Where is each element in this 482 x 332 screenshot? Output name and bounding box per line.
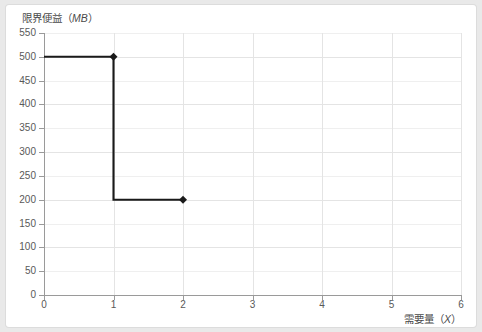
y-axis-tick bbox=[39, 57, 44, 58]
y-axis-tick-label: 200 bbox=[6, 195, 36, 205]
y-axis-tick bbox=[39, 224, 44, 225]
y-axis-label-text: 限界便益 bbox=[22, 12, 62, 24]
x-axis-label-unit: X bbox=[444, 313, 451, 325]
plot-area bbox=[44, 33, 461, 295]
y-axis-tick-label: 500 bbox=[6, 52, 36, 62]
y-axis-tick bbox=[39, 128, 44, 129]
y-axis-label-unit: MB bbox=[72, 12, 88, 24]
y-axis-tick bbox=[39, 247, 44, 248]
gridline-vertical bbox=[183, 33, 184, 295]
y-axis-tick-label: 350 bbox=[6, 123, 36, 133]
y-axis-line bbox=[44, 33, 45, 296]
gridline-vertical bbox=[253, 33, 254, 295]
chart-card: 限界便益（MB） 需要量（X） 050100150200250300350400… bbox=[6, 5, 476, 327]
y-axis-label-paren-open: （ bbox=[62, 12, 72, 24]
x-axis-tick-label: 6 bbox=[446, 300, 476, 310]
y-axis-tick-label: 300 bbox=[6, 147, 36, 157]
x-axis-tick-label: 3 bbox=[238, 300, 268, 310]
y-axis-tick bbox=[39, 200, 44, 201]
gridline-vertical bbox=[114, 33, 115, 295]
y-axis-tick bbox=[39, 176, 44, 177]
x-axis-label-text: 需要量 bbox=[404, 313, 434, 325]
y-axis-tick bbox=[39, 33, 44, 34]
y-axis-tick-label: 450 bbox=[6, 76, 36, 86]
y-axis-tick-label: 100 bbox=[6, 242, 36, 252]
y-axis-tick bbox=[39, 81, 44, 82]
gridline-vertical bbox=[322, 33, 323, 295]
x-axis-tick-label: 0 bbox=[29, 300, 59, 310]
y-axis-tick bbox=[39, 271, 44, 272]
y-axis-tick bbox=[39, 104, 44, 105]
y-axis-tick-label: 400 bbox=[6, 99, 36, 109]
y-axis-tick-label: 0 bbox=[6, 290, 36, 300]
y-axis-label-paren-close: ） bbox=[88, 12, 98, 24]
x-axis-tick-label: 1 bbox=[99, 300, 129, 310]
y-axis-tick-label: 50 bbox=[6, 266, 36, 276]
x-axis-label: 需要量（X） bbox=[404, 313, 461, 325]
x-axis-label-paren-close: ） bbox=[451, 313, 461, 325]
gridline-vertical bbox=[461, 33, 462, 295]
x-axis-label-paren-open: （ bbox=[434, 313, 444, 325]
y-axis-label: 限界便益（MB） bbox=[22, 12, 98, 24]
gridline-vertical bbox=[392, 33, 393, 295]
x-axis-tick-label: 5 bbox=[377, 300, 407, 310]
y-axis-tick-label: 150 bbox=[6, 219, 36, 229]
y-axis-tick bbox=[39, 152, 44, 153]
x-axis-tick-label: 2 bbox=[168, 300, 198, 310]
y-axis-tick-label: 550 bbox=[6, 28, 36, 38]
x-axis-tick-label: 4 bbox=[307, 300, 337, 310]
y-axis-tick-label: 250 bbox=[6, 171, 36, 181]
